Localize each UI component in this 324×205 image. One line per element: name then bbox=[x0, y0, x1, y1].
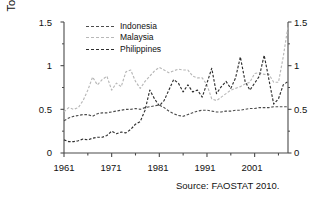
legend-item-indonesia: Indonesia bbox=[86, 21, 161, 32]
series-line-philippines bbox=[64, 55, 288, 141]
y-axis-title: Tonnes/hectare bbox=[2, 0, 20, 40]
legend-label-indonesia: Indonesia bbox=[120, 21, 157, 32]
x-axis-tick-label-0: 1961 bbox=[47, 162, 81, 173]
series-line-indonesia bbox=[64, 105, 288, 121]
y-axis-tick-label-right-0: 0 bbox=[294, 147, 324, 158]
legend-label-malaysia: Malaysia bbox=[120, 32, 154, 43]
legend-label-philippines: Philippines bbox=[120, 44, 161, 55]
y-axis-tick-label-left-1: 0.5 bbox=[22, 104, 52, 115]
x-axis-tick-label-1: 1971 bbox=[94, 162, 128, 173]
y-axis-tick-label-left-3: 1.5 bbox=[22, 17, 52, 28]
y-axis-tick-label-right-1: 0.5 bbox=[294, 104, 324, 115]
x-axis-tick-label-3: 1991 bbox=[188, 162, 222, 173]
x-axis-tick-label-2: 1981 bbox=[141, 162, 175, 173]
legend-swatch-malaysia bbox=[86, 37, 116, 38]
y-axis-tick-label-right-3: 1.5 bbox=[294, 17, 324, 28]
chart-figure: Tonnes/hectare 1.5 1 0.5 0 1.5 1 0.5 0 1… bbox=[0, 0, 324, 205]
legend-swatch-indonesia bbox=[86, 26, 116, 27]
y-axis-tick-label-left-0: 0 bbox=[22, 147, 52, 158]
x-axis-tick-label-4: 2001 bbox=[235, 162, 269, 173]
y-axis-tick-label-left-2: 1 bbox=[22, 60, 52, 71]
chart-legend: Indonesia Malaysia Philippines bbox=[86, 21, 161, 55]
y-axis-tick-label-right-2: 1 bbox=[294, 60, 324, 71]
plot-area bbox=[0, 0, 324, 205]
legend-item-philippines: Philippines bbox=[86, 44, 161, 55]
legend-item-malaysia: Malaysia bbox=[86, 32, 161, 43]
legend-swatch-philippines bbox=[86, 49, 116, 50]
source-note: Source: FAOSTAT 2010. bbox=[176, 180, 280, 191]
